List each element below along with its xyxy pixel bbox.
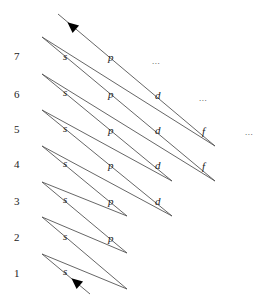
subshell-label: p (107, 124, 114, 136)
subshell-labels: sspspdspdfspdfspdsp (63, 50, 207, 277)
subshell-label: d (155, 89, 161, 101)
subshell-label: s (63, 157, 67, 169)
subshell-label: p (107, 51, 114, 63)
subshell-label: s (63, 122, 67, 134)
shell-number-label: 5 (14, 123, 20, 135)
aufbau-diagram: 7654321 sspspdspdfspdfspdsp ......... (0, 0, 261, 302)
subshell-label: p (107, 88, 114, 100)
subshell-label: d (155, 159, 161, 171)
subshell-label: s (63, 50, 67, 62)
subshell-label: s (63, 230, 67, 242)
subshell-label: d (155, 124, 161, 136)
subshell-label: s (63, 86, 67, 98)
subshell-label: p (107, 159, 114, 171)
subshell-label: p (107, 195, 114, 207)
shell-number-label: 6 (14, 88, 20, 100)
shell-number-labels: 7654321 (14, 50, 20, 279)
subshell-label: f (202, 160, 207, 172)
shell-number-label: 1 (14, 267, 20, 279)
ellipsis-label: ... (152, 56, 160, 66)
ellipsis-label: ... (245, 127, 253, 137)
ellipsis-label: ... (199, 93, 207, 103)
shell-number-label: 2 (14, 231, 20, 243)
zigzag-line (42, 14, 215, 294)
shell-number-label: 4 (14, 158, 20, 170)
subshell-label: p (107, 232, 114, 244)
subshell-label: f (202, 125, 207, 137)
shell-number-label: 3 (14, 195, 20, 207)
subshell-label: s (63, 265, 67, 277)
shell-number-label: 7 (14, 50, 20, 62)
filling-path (42, 14, 215, 294)
subshell-label: d (155, 195, 161, 207)
subshell-label: s (63, 193, 67, 205)
